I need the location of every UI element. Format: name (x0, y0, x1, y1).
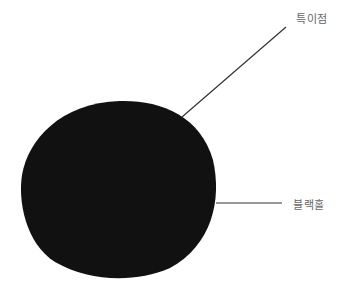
black-hole-diagram (0, 0, 347, 295)
black-hole-shape (21, 101, 216, 278)
singularity-label: 특이점 (296, 10, 328, 26)
singularity-leader-line (182, 27, 286, 117)
black-hole-label: 블랙홀 (293, 196, 325, 212)
